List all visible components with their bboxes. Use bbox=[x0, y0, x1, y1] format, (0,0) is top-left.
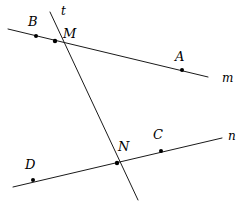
label-point-a: A bbox=[175, 50, 184, 63]
geometry-diagram bbox=[0, 0, 246, 206]
label-point-c: C bbox=[153, 128, 163, 141]
point-d bbox=[31, 178, 35, 182]
label-line-n: n bbox=[228, 130, 236, 142]
label-line-t: t bbox=[61, 5, 66, 17]
label-point-n: N bbox=[118, 140, 129, 153]
label-point-b: B bbox=[28, 15, 38, 28]
point-n-intersection bbox=[115, 161, 119, 165]
point-a bbox=[180, 68, 184, 72]
label-point-m: M bbox=[63, 27, 76, 40]
point-m-intersection bbox=[53, 39, 57, 43]
label-point-d: D bbox=[25, 158, 35, 171]
label-line-m: m bbox=[222, 72, 233, 84]
point-b bbox=[34, 34, 38, 38]
point-c bbox=[159, 149, 163, 153]
